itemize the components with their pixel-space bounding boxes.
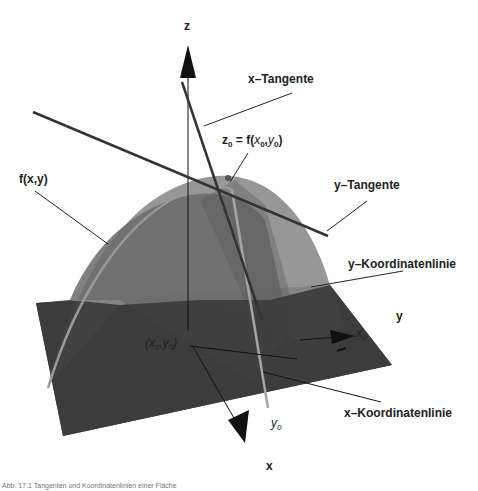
z-axis-arrowhead [180, 45, 196, 78]
x-axis-label: x [266, 459, 273, 473]
xy-plane-front [36, 285, 392, 436]
base-point-label: (x0,y0) [145, 336, 177, 352]
x0-label: x0 [355, 326, 367, 342]
z0-label: z0 = f(x0,y0) [222, 133, 282, 149]
y-tangent-label: y–Tangente [334, 178, 400, 192]
z-axis-label: z [184, 19, 190, 33]
surface-label: f(x,y) [19, 172, 48, 186]
leader-y-tangent [327, 201, 367, 231]
y-koordinatenlinie-label: y–Koordinatenlinie [348, 257, 456, 271]
y-axis-label: y [396, 309, 403, 323]
figure-caption: Abb. 17.1 Tangenten und Koordinatenlinie… [2, 482, 177, 489]
tangent-point [225, 175, 231, 181]
leader-fxy [35, 191, 108, 244]
x-tangent-label: x–Tangente [248, 72, 314, 86]
diagram-canvas: z y x x–Tangente y–Tangente f(x,y) y–Koo… [0, 0, 478, 491]
leader-x-tangent [204, 93, 292, 126]
x-koordinatenlinie-label: x–Koordinatenlinie [344, 406, 452, 420]
y0-label: y0 [270, 416, 282, 432]
x-axis-arrowhead [228, 410, 249, 443]
